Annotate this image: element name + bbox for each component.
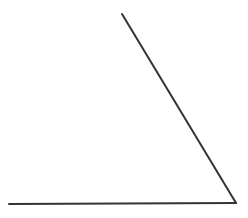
angle-diagram bbox=[0, 0, 248, 218]
slanted-ray bbox=[122, 14, 236, 203]
horizontal-ray bbox=[9, 203, 236, 204]
